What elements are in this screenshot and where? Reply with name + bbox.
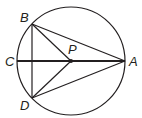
segment-bp: [32, 24, 71, 61]
label-c: C: [5, 54, 15, 69]
label-d: D: [20, 98, 29, 113]
segment-dp: [32, 61, 71, 98]
segment-ba: [32, 24, 125, 61]
label-p: P: [68, 42, 77, 57]
circle-geometry-diagram: A B C D P: [0, 0, 142, 118]
label-b: B: [20, 10, 29, 25]
label-a: A: [128, 54, 138, 69]
center-point-p-dot: [69, 59, 73, 63]
segment-da: [32, 61, 125, 98]
